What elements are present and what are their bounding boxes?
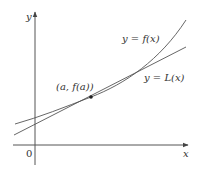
x-axis-label: x xyxy=(183,148,189,159)
tangent-line xyxy=(14,47,186,135)
linear-approximation-diagram: y x 0 y = f(x) y = L(x) (a, f(a)) xyxy=(0,0,198,177)
tangent-point xyxy=(89,95,93,99)
point-label: (a, f(a)) xyxy=(56,81,94,92)
origin-label: 0 xyxy=(26,148,32,159)
y-axis-label: y xyxy=(25,11,32,22)
function-label: y = f(x) xyxy=(121,33,160,44)
tangent-label: y = L(x) xyxy=(143,72,185,83)
